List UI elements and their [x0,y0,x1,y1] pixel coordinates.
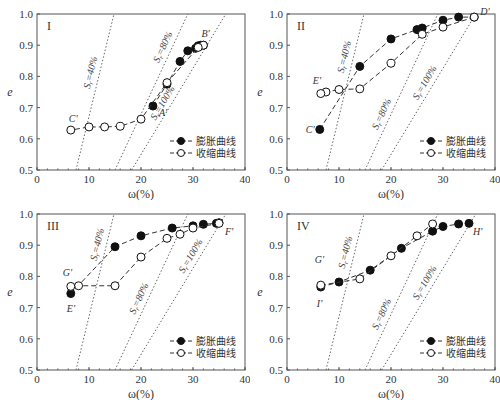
point-annotation: C' [69,113,79,124]
filled-marker [111,243,119,251]
saturation-label: Sr=100% [410,263,441,302]
legend-shrink-label: 收缩曲线 [196,347,236,359]
saturation-label: Sr=80% [127,281,153,316]
saturation-label: Sr=80% [369,297,395,332]
x-tick-label: 30 [188,173,200,185]
point-annotation: D' [479,6,490,17]
x-tick-label: 40 [240,173,251,185]
point-annotation: E' [66,303,76,314]
open-marker [67,126,75,134]
point-annotation: I' [316,298,323,309]
point-annotation: H' [472,226,483,237]
y-tick-label: 0.9 [19,239,33,251]
legend: 膨胀曲线收缩曲线 [420,135,486,159]
x-tick-label: 40 [240,373,251,385]
chart-panel-ii: 0102030400.50.60.70.80.91.0ω(%)eIISr=40%… [250,0,500,200]
svg-text:Sr=40%: Sr=40% [81,55,101,90]
y-tick-label: 1.0 [19,8,33,20]
filled-marker [356,62,364,70]
y-tick-label: 0.5 [19,364,33,376]
saturation-label: Sr=40% [81,55,101,90]
legend-filled-marker-icon [428,338,435,345]
x-tick-label: 10 [84,173,96,185]
x-tick-label: 0 [284,373,290,385]
open-marker [215,219,223,227]
open-marker [163,234,171,242]
legend-open-marker-icon [428,350,435,357]
legend-open-marker-icon [428,150,435,157]
filled-marker [465,219,473,227]
open-marker [111,282,119,290]
point-annotation: E' [312,75,322,86]
legend-filled-marker-icon [178,138,185,145]
saturation-label: Sr=40% [335,40,355,75]
saturation-label: Sr=80% [369,97,395,132]
y-tick-label: 0.9 [269,239,283,251]
open-marker [317,281,325,289]
chart-panel-iii: 0102030400.50.60.70.80.91.0ω(%)eIIISr=40… [0,200,250,400]
x-axis-label: ω(%) [378,187,404,200]
x-tick-label: 0 [34,373,40,385]
x-tick-label: 10 [334,173,346,185]
legend-filled-marker-icon [428,138,435,145]
saturation-label: Sr=40% [336,235,356,270]
open-marker [413,232,421,240]
y-tick-label: 0.9 [19,39,33,51]
open-marker [194,43,202,51]
point-annotation: C' [306,124,316,135]
open-marker [189,224,197,232]
y-tick-label: 0.7 [19,302,33,314]
open-marker [85,123,93,131]
panel-label: I [47,19,51,33]
x-tick-label: 30 [438,173,450,185]
x-tick-label: 10 [84,373,96,385]
y-axis-label: e [7,85,13,99]
open-marker [101,123,109,131]
svg-text:Sr=80%: Sr=80% [369,297,395,332]
open-marker [67,282,75,290]
legend-shrink-label: 收缩曲线 [196,147,236,159]
y-tick-label: 0.6 [269,133,283,145]
x-tick-label: 20 [136,173,148,185]
x-tick-label: 30 [438,373,450,385]
y-tick-label: 1.0 [19,208,33,220]
filled-marker [168,224,176,232]
legend-open-marker-icon [178,350,185,357]
open-marker [439,23,447,31]
chart-panel-iv: 0102030400.50.60.70.80.91.0ω(%)eIVSr=40%… [250,200,500,400]
y-tick-label: 1.0 [269,208,283,220]
point-annotation: A' [158,107,168,118]
y-tick-label: 0.6 [19,333,33,345]
filled-marker [439,222,447,230]
legend-swell-label: 膨胀曲线 [446,135,486,147]
open-marker [176,230,184,238]
x-axis-label: ω(%) [128,187,154,200]
legend-filled-marker-icon [178,338,185,345]
svg-text:Sr=40%: Sr=40% [336,235,356,270]
open-marker [75,282,83,290]
chart-panel-i: 0102030400.50.60.70.80.91.0ω(%)eISr=40%S… [0,0,250,200]
y-tick-label: 0.7 [19,102,33,114]
open-marker [335,86,343,94]
filled-marker [184,47,192,55]
open-marker [317,90,325,98]
y-tick-label: 0.8 [19,270,33,282]
y-tick-label: 0.8 [269,270,283,282]
x-tick-label: 20 [136,373,148,385]
panel-label: IV [297,219,310,233]
x-tick-label: 10 [334,373,346,385]
svg-text:Sr=100%: Sr=100% [410,63,441,102]
legend-swell-label: 膨胀曲线 [196,135,236,147]
legend: 膨胀曲线收缩曲线 [420,335,486,359]
x-tick-label: 0 [284,173,290,185]
filled-marker [137,232,145,240]
saturation-label: Sr=100% [176,237,207,276]
legend-swell-label: 膨胀曲线 [446,335,486,347]
x-axis-label: ω(%) [128,387,154,400]
x-axis-label: ω(%) [378,387,404,400]
open-marker [356,85,364,93]
panel-label: II [297,19,305,33]
panel-label: III [47,219,59,233]
x-tick-label: 20 [386,373,398,385]
svg-text:Sr=80%: Sr=80% [369,97,395,132]
